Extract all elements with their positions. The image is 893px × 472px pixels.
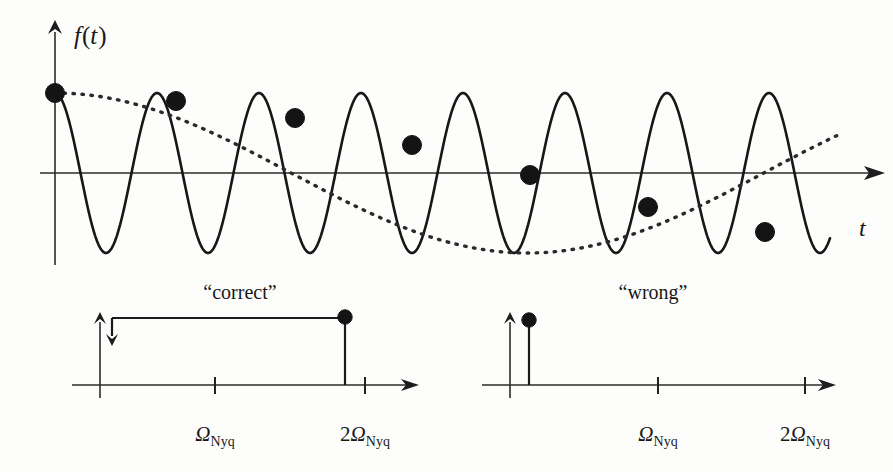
spectrum-correct-panel: “correct” ΩNyq 2ΩNyq bbox=[72, 281, 419, 449]
sample-point-dot bbox=[286, 109, 305, 128]
sample-point-group bbox=[46, 84, 775, 242]
sample-point-dot bbox=[167, 92, 186, 111]
amplitude-axis-arrowhead bbox=[48, 20, 62, 34]
sample-point-dot bbox=[521, 166, 540, 185]
sample-point-dot bbox=[639, 198, 658, 217]
aliasing-figure: f(t) t “correct” ΩNyq 2ΩNyq bbox=[0, 0, 893, 472]
spectrum-wrong-title: “wrong” bbox=[619, 281, 688, 304]
signal-axis-label: f(t) bbox=[74, 22, 107, 50]
figure-root: f(t) t “correct” ΩNyq 2ΩNyq bbox=[0, 0, 893, 472]
wrong-impulse-dot bbox=[522, 313, 536, 327]
wrong-tick-label-two-nyquist: 2ΩNyq bbox=[780, 422, 830, 449]
wrong-tick-label-nyquist: ΩNyq bbox=[638, 422, 677, 449]
spectrum-correct-title: “correct” bbox=[203, 281, 276, 303]
spectrum-wrong-panel: “wrong” ΩNyq 2ΩNyq bbox=[482, 281, 836, 449]
correct-impulse-dot bbox=[338, 310, 352, 324]
time-domain-panel: f(t) t bbox=[40, 20, 885, 265]
sample-point-dot bbox=[756, 223, 775, 242]
correct-tick-label-nyquist: ΩNyq bbox=[195, 422, 234, 449]
time-axis-label: t bbox=[859, 215, 867, 241]
correct-tick-label-two-nyquist: 2ΩNyq bbox=[340, 422, 390, 449]
sample-point-dot bbox=[403, 136, 422, 155]
sample-point-dot bbox=[46, 84, 65, 103]
